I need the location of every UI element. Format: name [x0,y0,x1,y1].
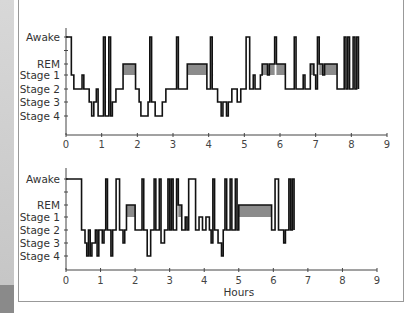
x-tick-label: 7 [312,139,318,150]
x-tick-label: 1 [98,139,104,150]
rem-period [187,64,207,75]
y-label: Stage 4 [20,250,61,262]
rem-period [262,64,267,75]
rem-period [276,64,285,75]
y-label: Stage 3 [20,237,60,249]
y-label: Stage 1 [20,69,60,81]
y-label: REM [37,199,60,211]
x-tick-label: 9 [384,139,390,150]
x-tick-label: 0 [63,275,69,286]
hypnogram-figure: AwakeREMStage 1Stage 2Stage 3Stage 40123… [0,0,412,313]
hypnogram-chart-1: AwakeREMStage 1Stage 2Stage 3Stage 40123… [20,28,391,150]
x-tick-label: 1 [97,275,103,286]
rem-period [239,205,272,217]
y-label: Awake [26,31,60,43]
x-tick-label: 4 [205,139,211,150]
rem-period [123,64,135,75]
y-label: Awake [26,173,60,185]
sleep-stage-line [66,179,294,256]
rem-period [325,64,337,75]
x-tick-label: 5 [236,275,242,286]
x-tick-label: 0 [63,139,69,150]
x-tick-label: 3 [170,139,176,150]
y-label: Stage 1 [20,211,60,223]
x-tick-label: 9 [374,275,380,286]
x-tick-label: 3 [166,275,172,286]
rem-period [126,205,135,217]
rem-period [269,64,274,75]
sleep-stage-line [66,37,358,116]
x-tick-label: 2 [134,139,140,150]
x-tick-label: 6 [270,275,276,286]
x-tick-label: 4 [201,275,207,286]
x-axis-title: Hours [223,286,254,298]
x-tick-label: 5 [241,139,247,150]
x-tick-label: 2 [132,275,138,286]
y-label: Stage 2 [20,83,60,95]
x-tick-label: 8 [339,275,345,286]
y-label: Stage 3 [20,96,60,108]
y-label: Stage 2 [20,224,60,236]
x-tick-label: 7 [305,275,311,286]
x-tick-label: 8 [348,139,354,150]
x-tick-label: 6 [277,139,283,150]
hypnogram-chart-2: AwakeREMStage 1Stage 2Stage 3Stage 40123… [20,168,381,298]
y-label: Stage 4 [20,110,61,122]
